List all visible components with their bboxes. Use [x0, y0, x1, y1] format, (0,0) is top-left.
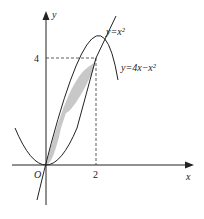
label-y-x-squared: y=x²: [105, 26, 126, 37]
y-axis-label: y: [51, 9, 57, 20]
x-axis-label: x: [185, 171, 191, 182]
shaded-region: [46, 58, 96, 165]
y-axis-arrow-icon: [43, 11, 50, 20]
y-tick-4: 4: [34, 53, 39, 64]
label-y-4x-minus-x-squared: y=4x−x²: [120, 62, 157, 73]
origin-label: O: [34, 169, 41, 180]
diagram: y x O 2 4 y=x² y=4x−x²: [0, 0, 204, 219]
plot-svg: y x O 2 4 y=x² y=4x−x²: [0, 0, 204, 219]
x-axis-arrow-icon: [185, 162, 194, 169]
x-tick-2: 2: [93, 169, 98, 180]
curve-y-x-squared: [15, 16, 116, 165]
curve-y-4x-minus-x-squared: [37, 36, 118, 200]
